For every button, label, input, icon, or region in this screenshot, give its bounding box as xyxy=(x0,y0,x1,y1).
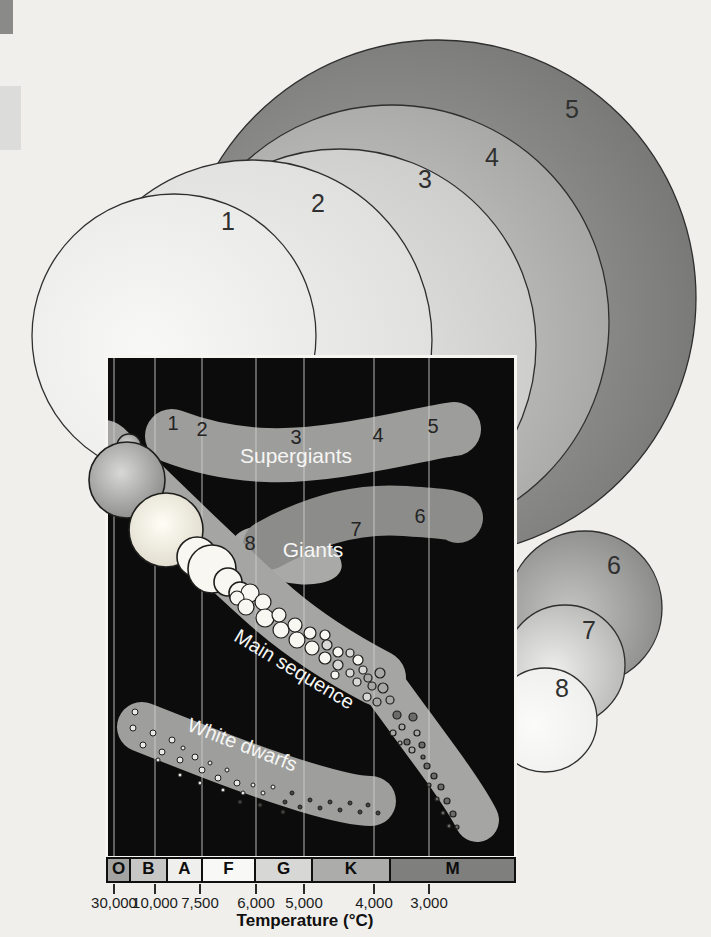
white-dwarf-dot xyxy=(159,749,165,755)
giants-stage-number: 8 xyxy=(244,532,255,554)
white-dwarf-dot xyxy=(290,791,294,795)
supergiants-stage-number: 1 xyxy=(167,412,178,434)
star-size-circle-number: 3 xyxy=(418,165,432,193)
temperature-tick-label: 6,000 xyxy=(237,894,275,911)
white-dwarf-dot xyxy=(258,803,262,807)
star-size-circle-number: 5 xyxy=(565,95,579,123)
temperature-tick-label: 5,000 xyxy=(285,894,323,911)
star-size-circle-number: 4 xyxy=(485,143,499,171)
white-dwarf-dot xyxy=(199,767,205,773)
white-dwarf-dot xyxy=(192,754,198,760)
temperature-tick xyxy=(373,884,375,894)
temperature-tick-label: 3,000 xyxy=(410,894,448,911)
white-dwarf-dot xyxy=(130,725,136,731)
white-dwarf-dot xyxy=(358,810,362,814)
white-dwarf-dot xyxy=(156,758,160,762)
white-dwarf-dot xyxy=(281,810,285,814)
hr-diagram: Supergiants Giants Main sequence White d… xyxy=(108,358,514,856)
white-dwarf-dot xyxy=(298,805,302,809)
white-dwarf-dot xyxy=(169,737,175,743)
white-dwarf-dot xyxy=(318,806,322,810)
spectral-class-O: O xyxy=(108,859,129,881)
spectral-class-B: B xyxy=(131,859,166,881)
supergiants-stage-number: 5 xyxy=(427,415,438,437)
star-size-circle-number: 7 xyxy=(582,616,596,644)
hr-diagram-panel: Supergiants Giants Main sequence White d… xyxy=(105,355,517,859)
spectral-class-M: M xyxy=(391,859,514,881)
white-dwarf-dot xyxy=(221,788,225,792)
white-dwarf-dot xyxy=(181,746,185,750)
white-dwarf-dot xyxy=(241,791,245,795)
star-size-circle-number: 8 xyxy=(555,674,569,702)
temperature-tick xyxy=(303,884,305,894)
white-dwarf-dot xyxy=(348,801,352,805)
white-dwarf-dot xyxy=(215,775,221,781)
white-dwarf-dot xyxy=(150,730,156,736)
white-dwarf-dot xyxy=(376,811,380,815)
temperature-tick xyxy=(154,884,156,894)
white-dwarf-dot xyxy=(225,768,229,772)
white-dwarf-dot xyxy=(177,757,183,763)
temperature-tick-label: 30,000 xyxy=(91,894,137,911)
supergiants-stage-number: 2 xyxy=(196,418,207,440)
temperature-tick xyxy=(199,884,201,894)
star-size-circle-number: 1 xyxy=(221,207,235,235)
spectral-class-A: A xyxy=(168,859,201,881)
giants-stage-number: 7 xyxy=(350,518,361,540)
giants-label: Giants xyxy=(283,538,344,561)
temperature-tick-label: 7,500 xyxy=(181,894,219,911)
white-dwarf-dot xyxy=(178,773,182,777)
white-dwarf-dot xyxy=(338,808,342,812)
supergiants-stage-number: 3 xyxy=(290,426,301,448)
giants-stage-number: 6 xyxy=(414,505,425,527)
white-dwarf-dot xyxy=(198,781,202,785)
spectral-class-F: F xyxy=(203,859,254,881)
temperature-axis-label: Temperature (°C) xyxy=(237,911,374,931)
temperature-tick xyxy=(113,884,115,894)
spectral-class-K: K xyxy=(313,859,389,881)
white-dwarf-dot xyxy=(328,800,332,804)
star-size-circle-number: 6 xyxy=(607,551,621,579)
temperature-tick-label: 4,000 xyxy=(355,894,393,911)
temperature-tick-label: 10,000 xyxy=(132,894,178,911)
star-size-circle-number: 2 xyxy=(311,189,325,217)
spectral-class-G: G xyxy=(256,859,311,881)
white-dwarf-dot xyxy=(271,785,275,789)
white-dwarf-dot xyxy=(208,761,212,765)
white-dwarf-dot xyxy=(234,780,240,786)
white-dwarf-dot xyxy=(308,798,312,802)
white-dwarf-dot xyxy=(366,803,370,807)
white-dwarf-dot xyxy=(283,800,287,804)
white-dwarf-dot xyxy=(251,783,255,787)
temperature-tick xyxy=(428,884,430,894)
temperature-tick xyxy=(255,884,257,894)
white-dwarf-dot xyxy=(140,742,146,748)
figure-page: 54321678 Supergiants Giants Main sequenc… xyxy=(0,0,711,937)
white-dwarf-dot xyxy=(238,800,242,804)
supergiants-stage-number: 4 xyxy=(372,424,383,446)
spectral-class-bar: OBAFGKM xyxy=(106,857,516,883)
white-dwarf-dot xyxy=(261,791,265,795)
white-dwarf-dot xyxy=(132,709,138,715)
